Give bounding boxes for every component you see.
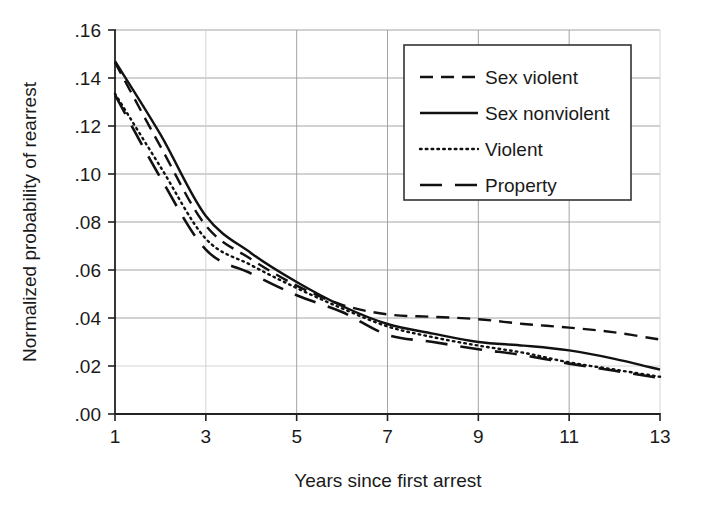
y-tick-label: .06 [75, 260, 101, 281]
y-tick-label: .08 [75, 212, 101, 233]
x-tick-label: 5 [291, 426, 302, 447]
legend-label-sex-nonviolent: Sex nonviolent [485, 103, 610, 124]
y-axis-title: Normalized probability of rearrest [19, 81, 40, 362]
x-tick-label: 9 [473, 426, 484, 447]
legend-label-violent: Violent [485, 139, 543, 160]
chart-legend: Sex violentSex nonviolentViolentProperty [404, 45, 631, 200]
x-axis-title: Years since first arrest [294, 470, 482, 491]
y-tick-label: .00 [75, 404, 101, 425]
y-tick-label: .16 [75, 20, 101, 41]
x-tick-label: 13 [649, 426, 670, 447]
y-tick-label: .12 [75, 116, 101, 137]
y-tick-label: .10 [75, 164, 101, 185]
x-tick-label: 7 [382, 426, 393, 447]
x-tick-labels: 135791113 [110, 426, 671, 447]
y-tick-labels: .00.02.04.06.08.10.12.14.16 [75, 20, 102, 425]
chart-figure: .00.02.04.06.08.10.12.14.16 135791113 Ye… [0, 0, 701, 513]
legend-label-sex-violent: Sex violent [485, 67, 579, 88]
y-tick-label: .02 [75, 356, 101, 377]
legend-label-property: Property [485, 175, 557, 196]
x-tick-label: 1 [110, 426, 121, 447]
chart-svg: .00.02.04.06.08.10.12.14.16 135791113 Ye… [0, 0, 701, 513]
y-tick-label: .14 [75, 68, 102, 89]
x-tick-label: 3 [201, 426, 212, 447]
y-tick-label: .04 [75, 308, 102, 329]
x-tick-label: 11 [559, 426, 579, 447]
